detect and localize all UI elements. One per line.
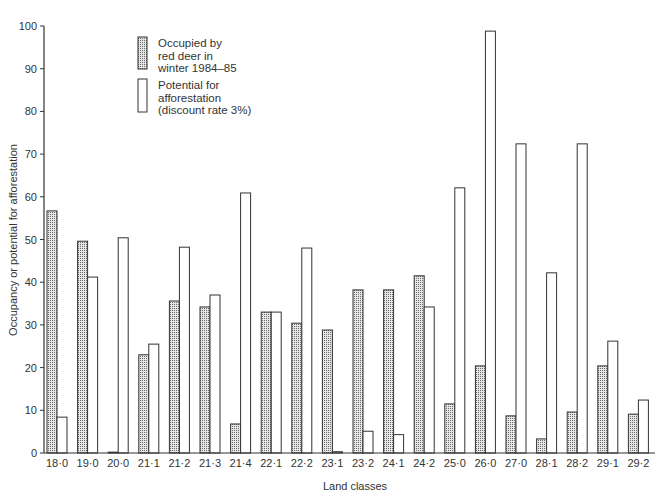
x-tick-label: 21·2	[168, 457, 190, 469]
bar-occupied	[292, 323, 302, 453]
x-tick-label: 18·0	[46, 457, 68, 469]
bar-potential	[88, 277, 98, 453]
bar-occupied	[200, 307, 210, 453]
x-tick-label: 21·3	[199, 457, 221, 469]
bar-potential	[608, 341, 618, 453]
bar-occupied	[169, 301, 179, 453]
bar-group	[384, 290, 404, 453]
x-tick-label: 28·1	[536, 457, 558, 469]
y-tick-label: 80	[25, 105, 37, 117]
bar-group	[78, 241, 98, 453]
bar-group	[169, 247, 189, 453]
bar-group	[47, 211, 67, 453]
x-tick-label: 19·0	[77, 457, 99, 469]
bar-occupied	[261, 312, 271, 453]
bar-group	[261, 312, 281, 453]
y-tick-label: 70	[25, 148, 37, 160]
bar-potential	[57, 417, 67, 453]
x-tick-label: 22·2	[291, 457, 313, 469]
legend-item-potential: Potential forafforestation(discount rate…	[138, 79, 251, 116]
bar-group	[598, 341, 618, 453]
x-tick-label: 28·2	[566, 457, 588, 469]
legend-swatch	[138, 37, 147, 69]
bar-occupied	[567, 412, 577, 453]
legend-label: winter 1984–85	[157, 62, 237, 74]
y-tick-label: 0	[31, 447, 37, 459]
bar-group	[475, 31, 495, 453]
bar-potential	[179, 247, 189, 453]
x-tick-label: 24·2	[413, 457, 435, 469]
x-axis-title: Land classes	[323, 480, 388, 492]
bar-group	[231, 193, 251, 453]
bar-potential	[302, 248, 312, 453]
bar-occupied	[628, 414, 638, 453]
bar-group	[353, 290, 373, 453]
y-axis-title: Occupancy or potential for afforestation	[7, 144, 19, 336]
x-tick-label: 20·0	[107, 457, 129, 469]
legend-swatch	[138, 79, 147, 112]
legend-label: red deer in	[158, 50, 213, 62]
bar-potential	[210, 295, 220, 453]
x-tick-label: 29·2	[627, 457, 649, 469]
legend-label: (discount rate 3%)	[158, 104, 251, 116]
bar-potential	[547, 273, 557, 453]
legend-label: Potential for	[158, 79, 220, 91]
bar-group	[139, 344, 159, 453]
bar-potential	[149, 344, 159, 453]
bar-potential	[241, 193, 251, 453]
bar-group	[628, 400, 648, 453]
bar-group	[567, 144, 587, 453]
bar-group	[506, 144, 526, 453]
bar-group	[414, 276, 434, 453]
bar-group	[292, 248, 312, 453]
bar-group	[200, 295, 220, 453]
bar-occupied	[598, 366, 608, 453]
bar-group	[537, 273, 557, 453]
bar-potential	[638, 400, 648, 453]
x-tick-label: 24·1	[383, 457, 405, 469]
legend-item-occupied: Occupied byred deer inwinter 1984–85	[138, 37, 237, 74]
bar-potential	[118, 238, 128, 453]
bar-potential	[455, 188, 465, 453]
bar-potential	[577, 144, 587, 453]
y-tick-label: 30	[25, 319, 37, 331]
y-tick-label: 50	[25, 234, 37, 246]
x-tick-label: 21·4	[230, 457, 252, 469]
bar-potential	[271, 312, 281, 453]
bar-potential	[363, 431, 373, 453]
bar-potential	[485, 31, 495, 453]
x-tick-label: 25·0	[444, 457, 466, 469]
x-tick-label: 29·1	[597, 457, 619, 469]
bar-occupied	[537, 439, 547, 453]
x-tick-label: 21·1	[138, 457, 160, 469]
x-axis: 18·019·020·021·121·221·321·422·122·223·1…	[44, 453, 655, 469]
y-tick-label: 100	[19, 20, 37, 32]
bar-potential	[424, 307, 434, 453]
y-axis: 0102030405060708090100	[19, 20, 44, 459]
bar-chart: 0102030405060708090100 18·019·020·021·12…	[0, 0, 662, 500]
legend-label: afforestation	[158, 92, 221, 104]
y-tick-label: 40	[25, 276, 37, 288]
legend-label: Occupied by	[158, 37, 222, 49]
y-tick-label: 20	[25, 362, 37, 374]
x-tick-label: 23·1	[321, 457, 343, 469]
bar-potential	[394, 435, 404, 453]
y-tick-label: 60	[25, 191, 37, 203]
y-tick-label: 90	[25, 63, 37, 75]
bar-occupied	[322, 330, 332, 453]
bar-occupied	[384, 290, 394, 453]
bars	[47, 31, 648, 453]
bar-occupied	[445, 404, 455, 453]
bar-occupied	[506, 416, 516, 453]
x-tick-label: 26·0	[474, 457, 496, 469]
bar-potential	[516, 144, 526, 453]
x-tick-label: 22·1	[260, 457, 282, 469]
bar-occupied	[353, 290, 363, 453]
x-tick-label: 27·0	[505, 457, 527, 469]
bar-occupied	[475, 366, 485, 453]
legend: Occupied byred deer inwinter 1984–85Pote…	[138, 37, 251, 116]
x-tick-label: 23·2	[352, 457, 374, 469]
bar-occupied	[414, 276, 424, 453]
y-tick-label: 10	[25, 404, 37, 416]
bar-occupied	[78, 241, 88, 453]
